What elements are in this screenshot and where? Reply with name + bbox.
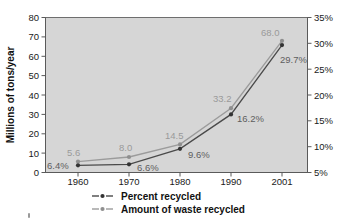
y2-tick-label-5: 5% bbox=[314, 167, 328, 178]
data-label-amount-2001: 68.0 bbox=[261, 27, 280, 38]
chart-legend: Percent recycled Amount of waste recycle… bbox=[92, 191, 245, 215]
x-tick-label-1990: 1990 bbox=[220, 176, 241, 187]
y-tick-label-80: 80 bbox=[28, 12, 39, 23]
data-label-percent-1980: 9.6% bbox=[188, 149, 210, 160]
data-label-percent-1990: 16.2% bbox=[237, 113, 264, 124]
data-point-percent-1980 bbox=[178, 147, 182, 151]
x-tick-label-1980: 1980 bbox=[169, 176, 190, 187]
y-tick-label-70: 70 bbox=[28, 31, 39, 42]
data-label-percent-1970: 6.6% bbox=[137, 162, 159, 173]
scan-artifact-mark bbox=[28, 213, 30, 218]
x-axis: 1960 1970 1980 1990 2001 bbox=[46, 173, 308, 188]
right-axis-ticks bbox=[308, 18, 312, 173]
data-label-amount-1960: 5.6 bbox=[67, 147, 80, 158]
data-point-amount-2001 bbox=[280, 39, 284, 43]
data-point-amount-1980 bbox=[178, 142, 182, 146]
legend-label-amount-of-waste-recycled: Amount of waste recycled bbox=[121, 204, 245, 215]
y-tick-label-50: 50 bbox=[28, 70, 39, 81]
data-label-amount-1990: 33.2 bbox=[213, 93, 232, 104]
y-tick-label-30: 30 bbox=[28, 109, 39, 120]
legend-item-amount-of-waste-recycled[interactable]: Amount of waste recycled bbox=[92, 204, 245, 215]
recycling-line-chart: 0 10 20 30 40 50 60 70 80 Millions of to… bbox=[0, 0, 352, 222]
x-tick-label-1970: 1970 bbox=[118, 176, 139, 187]
data-point-percent-1970 bbox=[127, 162, 131, 166]
data-point-percent-2001 bbox=[280, 43, 284, 47]
data-point-percent-1960 bbox=[76, 163, 80, 167]
data-label-amount-1980: 14.5 bbox=[165, 130, 184, 141]
data-label-percent-1960: 6.4% bbox=[47, 160, 69, 171]
y2-tick-label-10: 10% bbox=[314, 141, 334, 152]
y2-tick-label-25: 25% bbox=[314, 64, 334, 75]
data-point-percent-1990 bbox=[229, 112, 233, 116]
y-tick-label-10: 10 bbox=[28, 148, 39, 159]
legend-label-percent-recycled: Percent recycled bbox=[121, 191, 201, 202]
legend-item-percent-recycled[interactable]: Percent recycled bbox=[92, 191, 201, 202]
y2-tick-label-20: 20% bbox=[314, 90, 334, 101]
right-axis: 5% 10% 15% 20% 25% 30% 35% bbox=[308, 12, 334, 178]
data-point-amount-1990 bbox=[229, 106, 233, 110]
y-tick-label-0: 0 bbox=[34, 167, 39, 178]
y2-tick-label-15: 15% bbox=[314, 115, 334, 126]
y-tick-label-60: 60 bbox=[28, 51, 39, 62]
x-tick-label-2001: 2001 bbox=[271, 176, 292, 187]
data-point-amount-1960 bbox=[76, 160, 80, 164]
y2-tick-label-30: 30% bbox=[314, 38, 334, 49]
data-label-percent-2001: 29.7% bbox=[280, 54, 307, 65]
x-tick-label-1960: 1960 bbox=[67, 176, 88, 187]
y-axis-title: Millions of tons/year bbox=[5, 47, 16, 144]
y-tick-label-20: 20 bbox=[28, 128, 39, 139]
y2-tick-label-35: 35% bbox=[314, 12, 334, 23]
legend-marker-dot-icon bbox=[100, 194, 104, 198]
left-axis-ticks bbox=[42, 18, 46, 173]
y-tick-label-40: 40 bbox=[28, 90, 39, 101]
data-label-amount-1970: 8.0 bbox=[119, 142, 132, 153]
legend-marker-dot-icon-2 bbox=[100, 207, 104, 211]
data-point-amount-1970 bbox=[127, 155, 131, 159]
left-axis: 0 10 20 30 40 50 60 70 80 Millions of to… bbox=[5, 12, 46, 178]
